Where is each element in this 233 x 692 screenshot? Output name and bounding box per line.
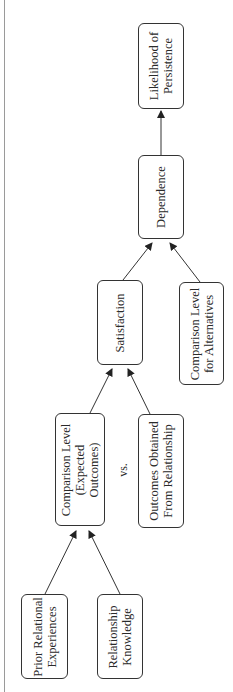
- edge-prior-to-cl: [45, 531, 76, 594]
- node-label: Dependence: [154, 166, 168, 228]
- edge-knowledge-to-cl: [89, 531, 120, 594]
- node-label: Satisfaction: [113, 293, 127, 352]
- node-label: Outcomes Obtained From Relationship: [147, 421, 175, 521]
- node-likelihood-persistence: Likelihood of Persistence: [138, 23, 184, 109]
- node-relationship-knowledge: Relationship Knowledge: [97, 594, 143, 679]
- edge-satisfaction-to-dependence: [123, 243, 152, 280]
- node-label: Comparison Level (Expected Outcomes): [59, 423, 101, 516]
- vs-label: vs.: [116, 463, 131, 477]
- node-label: Relationship Knowledge: [106, 605, 134, 668]
- node-prior-relational-experiences: Prior Relational Experiences: [21, 594, 68, 679]
- edge-cl-to-satisfaction: [90, 369, 112, 413]
- edge-outcomes-to-satisfaction: [128, 369, 150, 414]
- node-comparison-level-alternatives: Comparison Level for Alternatives: [179, 282, 224, 385]
- node-label: Comparison Level for Alternatives: [188, 287, 216, 380]
- node-outcomes-obtained: Outcomes Obtained From Relationship: [138, 414, 184, 528]
- node-satisfaction: Satisfaction: [97, 280, 143, 365]
- node-label: Likelihood of Persistence: [147, 32, 175, 100]
- node-comparison-level: Comparison Level (Expected Outcomes): [55, 413, 105, 526]
- node-label: Prior Relational Experiences: [31, 597, 59, 677]
- edge-clalt-to-dependence: [170, 243, 200, 282]
- node-dependence: Dependence: [138, 155, 184, 239]
